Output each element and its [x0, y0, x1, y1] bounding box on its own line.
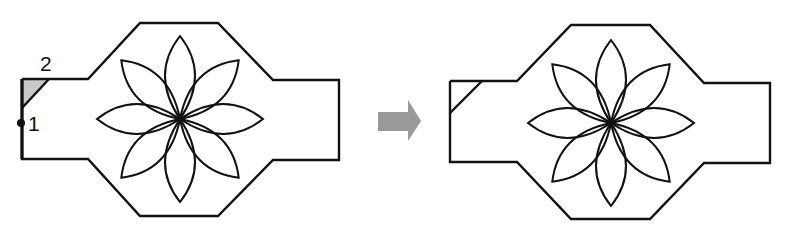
arrow-right-icon	[378, 100, 421, 141]
chamfer-line	[450, 81, 482, 113]
diagram-canvas: 1 2	[0, 0, 791, 238]
flower-icon	[528, 40, 694, 206]
point-2-label: 2	[40, 52, 52, 75]
point-1-marker	[17, 119, 25, 127]
right-figure	[450, 25, 770, 219]
flower-icon	[97, 36, 263, 202]
point-1-label: 1	[28, 112, 40, 135]
left-figure: 1 2	[17, 23, 339, 216]
